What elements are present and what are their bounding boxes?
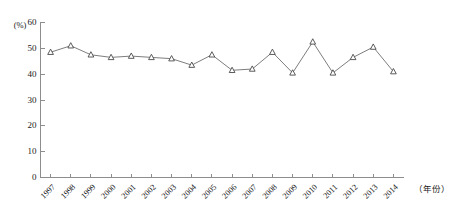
y-tick-label: 50 — [28, 43, 38, 53]
y-tick-label: 40 — [28, 69, 38, 79]
x-tick-label: 2008 — [261, 183, 279, 201]
x-tick-label: 1997 — [39, 183, 57, 201]
x-tick-label: 2012 — [341, 183, 359, 201]
x-tick-label: 2002 — [140, 183, 158, 201]
x-tick-label: 1998 — [59, 183, 77, 201]
x-tick-label: 2000 — [99, 183, 117, 201]
y-tick-label: 20 — [28, 120, 38, 130]
y-tick-label: 60 — [28, 17, 38, 27]
y-tick-label: 10 — [28, 146, 38, 156]
data-point-marker — [350, 54, 356, 59]
chart-canvas: 0102030405060(%)199719981999200020012002… — [0, 0, 456, 206]
x-tick-label: 2001 — [120, 183, 138, 201]
x-tick-label: 1999 — [79, 183, 97, 201]
data-point-marker — [128, 53, 134, 58]
x-tick-label: 2003 — [160, 183, 178, 201]
x-tick-label: 2006 — [220, 183, 238, 201]
data-point-marker — [68, 43, 74, 48]
series-line — [51, 42, 394, 73]
data-point-marker — [270, 49, 276, 54]
data-point-marker — [249, 66, 255, 71]
line-chart: 0102030405060(%)199719981999200020012002… — [0, 0, 456, 206]
x-tick-label: 2007 — [241, 183, 259, 201]
x-tick-label: 2009 — [281, 183, 299, 201]
y-axis-unit-label: (%) — [14, 20, 27, 30]
x-tick-label: 2014 — [382, 182, 401, 201]
x-tick-label: 2010 — [301, 183, 319, 201]
y-tick-label: 30 — [28, 95, 38, 105]
x-tick-label: 2005 — [200, 183, 218, 201]
data-point-marker — [209, 52, 215, 57]
data-point-marker — [310, 39, 316, 44]
data-point-marker — [370, 44, 376, 49]
x-tick-label: 2004 — [180, 182, 199, 201]
x-tick-label: 2011 — [321, 183, 339, 201]
x-axis-title: （年份） — [414, 184, 450, 194]
x-tick-label: 2013 — [362, 183, 380, 201]
y-tick-label: 0 — [32, 172, 37, 182]
